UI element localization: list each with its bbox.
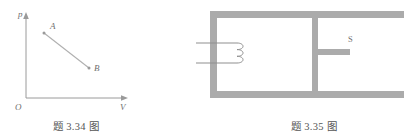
x-axis-arrowhead — [121, 95, 128, 101]
core-center-limb — [312, 11, 318, 98]
figure-sheet: p V O A B 题 3.34 图 S 题 3.3 — [0, 0, 404, 139]
core-top-yoke — [210, 11, 404, 18]
figure-magnetic-core: S 题 3.35 图 — [196, 0, 404, 139]
gap-label-s: S — [348, 34, 353, 44]
process-line-ab — [44, 33, 89, 68]
figure-caption-right: 题 3.35 图 — [210, 118, 404, 133]
core-bottom-yoke — [210, 91, 404, 98]
core-left-limb — [210, 11, 217, 98]
point-marker-a — [43, 32, 46, 35]
core-gap-stub — [318, 49, 350, 55]
coil-winding — [237, 43, 243, 63]
point-label-a: A — [49, 21, 56, 31]
magnetic-core-canvas: S — [196, 0, 404, 115]
figure-pv-diagram: p V O A B 题 3.34 图 — [0, 0, 200, 139]
pv-diagram-canvas: p V O A B — [0, 0, 200, 115]
y-axis-arrowhead — [23, 12, 29, 19]
origin-label: O — [15, 102, 22, 112]
x-axis-label: V — [120, 102, 127, 112]
point-marker-b — [88, 67, 91, 70]
figure-caption-left: 题 3.34 图 — [0, 118, 176, 133]
point-label-b: B — [94, 63, 100, 73]
y-axis-label: p — [17, 9, 23, 19]
